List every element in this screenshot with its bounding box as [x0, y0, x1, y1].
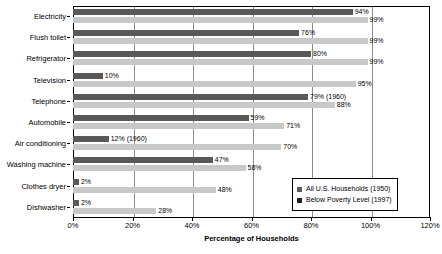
- bar: [73, 9, 353, 15]
- x-tick-label: 120%: [420, 221, 439, 230]
- category-label: Refrigerator: [0, 48, 70, 69]
- bar-value-label: 76%: [301, 30, 315, 36]
- bar-series2: 99%: [73, 38, 384, 44]
- bar: [73, 94, 308, 100]
- category-label: Air conditioning: [0, 133, 70, 154]
- bar-value-label: 95%: [358, 81, 372, 87]
- bar-value-label: 2%: [81, 200, 91, 206]
- bar-group: 12% (1960)70%: [73, 133, 430, 154]
- bar-value-label: 79% (1960): [310, 94, 346, 100]
- bar-series1: 79% (1960): [73, 94, 346, 100]
- category-tick: [67, 122, 70, 123]
- category-label: Flush toilet: [0, 27, 70, 48]
- bar-series1: 47%: [73, 157, 229, 163]
- bar-series2: 88%: [73, 102, 351, 108]
- bar-group: 47%58%: [73, 154, 430, 175]
- bar: [73, 51, 311, 57]
- bar: [73, 115, 249, 121]
- bar: [73, 73, 103, 79]
- bar-series2: 58%: [73, 165, 262, 171]
- category-tick: [67, 207, 70, 208]
- bar-series1: 12% (1960): [73, 136, 147, 142]
- bar-group: 80%99%: [73, 48, 430, 69]
- bar-series2: 71%: [73, 123, 300, 129]
- bar-value-label: 99%: [370, 38, 384, 44]
- x-tick-label: 60%: [244, 221, 259, 230]
- bar-series1: 94%: [73, 9, 369, 15]
- category-tick: [67, 37, 70, 38]
- bar-series2: 48%: [73, 187, 232, 193]
- category-label: Clothes dryer: [0, 176, 70, 197]
- bar: [73, 208, 156, 214]
- x-tick-label: 20%: [125, 221, 140, 230]
- x-tick-label: 100%: [361, 221, 380, 230]
- bar: [73, 30, 299, 36]
- bar: [73, 102, 335, 108]
- bar-series2: 99%: [73, 59, 384, 65]
- bar-series1: 59%: [73, 115, 265, 121]
- bar: [73, 200, 79, 206]
- bar-value-label: 2%: [81, 179, 91, 185]
- bar: [73, 136, 109, 142]
- category-tick: [67, 164, 70, 165]
- bar-group: 10%95%: [73, 70, 430, 91]
- bar: [73, 165, 246, 171]
- bar-value-label: 99%: [370, 59, 384, 65]
- x-tick-label: 40%: [184, 221, 199, 230]
- bar-value-label: 47%: [215, 157, 229, 163]
- bar-series2: 70%: [73, 144, 297, 150]
- bar: [73, 187, 216, 193]
- bar-series1: 80%: [73, 51, 327, 57]
- category-label: Automobile: [0, 112, 70, 133]
- bar: [73, 144, 281, 150]
- bar-series2: 99%: [73, 17, 384, 23]
- category-tick: [67, 143, 70, 144]
- bar-series1: 76%: [73, 30, 315, 36]
- x-tick-label: 0%: [68, 221, 79, 230]
- category-tick: [67, 80, 70, 81]
- x-axis-title: Percentage of Households: [73, 234, 430, 243]
- legend-swatch-icon: [297, 198, 302, 203]
- chart-legend: All U.S. Households (1950)Below Poverty …: [292, 178, 398, 211]
- legend-item: All U.S. Households (1950): [297, 184, 392, 194]
- bar-value-label: 10%: [105, 73, 119, 79]
- bar-value-label: 12% (1960): [111, 136, 147, 142]
- bar-value-label: 80%: [313, 51, 327, 57]
- bar-value-label: 99%: [370, 17, 384, 23]
- bar: [73, 123, 284, 129]
- bar-chart: ElectricityFlush toiletRefrigeratorTelev…: [0, 0, 442, 254]
- bar-value-label: 94%: [355, 9, 369, 15]
- bar-series1: 10%: [73, 73, 119, 79]
- legend-item: Below Poverty Level (1997): [297, 195, 392, 205]
- bar-series2: 95%: [73, 81, 372, 87]
- bar-series1: 2%: [73, 179, 91, 185]
- legend-swatch-icon: [297, 187, 302, 192]
- bar-group: 59%71%: [73, 112, 430, 133]
- bar: [73, 81, 356, 87]
- legend-label: All U.S. Households (1950): [306, 184, 390, 194]
- value-axis: 0%20%40%60%80%100%120%: [73, 221, 430, 233]
- bar: [73, 59, 368, 65]
- category-label: Dishwasher: [0, 197, 70, 218]
- bar-group: 76%99%: [73, 27, 430, 48]
- bar: [73, 38, 368, 44]
- bar: [73, 17, 368, 23]
- bar-value-label: 58%: [248, 165, 262, 171]
- bar-group: 79% (1960)88%: [73, 91, 430, 112]
- bar: [73, 179, 79, 185]
- bar-series2: 28%: [73, 208, 172, 214]
- legend-label: Below Poverty Level (1997): [306, 195, 392, 205]
- category-label: Television: [0, 70, 70, 91]
- category-tick: [67, 186, 70, 187]
- bar-value-label: 88%: [337, 102, 351, 108]
- category-tick: [67, 101, 70, 102]
- bar-series1: 2%: [73, 200, 91, 206]
- category-label: Telephone: [0, 91, 70, 112]
- category-tick: [67, 16, 70, 17]
- category-label: Electricity: [0, 6, 70, 27]
- x-tick-label: 80%: [303, 221, 318, 230]
- bar-group: 94%99%: [73, 6, 430, 27]
- category-axis: ElectricityFlush toiletRefrigeratorTelev…: [0, 6, 70, 218]
- bar-value-label: 70%: [283, 144, 297, 150]
- bar-value-label: 71%: [286, 123, 300, 129]
